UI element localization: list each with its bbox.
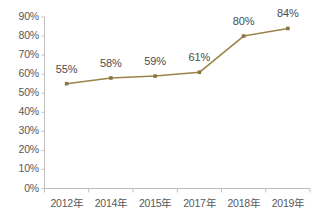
series-data-point (153, 74, 157, 78)
series-data-point (65, 82, 69, 86)
series-data-label: 80% (227, 15, 261, 27)
x-axis-tick-label: 2017年 (176, 195, 222, 210)
x-axis-tick-label: 2015年 (132, 195, 178, 210)
x-axis-tick-label: 2012年 (44, 195, 90, 210)
series-data-point (286, 27, 290, 31)
x-axis-tick-label: 2018年 (221, 195, 267, 210)
series-data-point (109, 76, 113, 80)
y-axis-tick-label: 90% (5, 10, 39, 22)
line-chart: 0%10%20%30%40%50%60%70%80%90% 2012年2014年… (0, 0, 314, 218)
series-data-label: 58% (94, 57, 128, 69)
series-data-label: 61% (182, 51, 216, 63)
y-axis-tick-label: 50% (5, 86, 39, 98)
series-data-label: 55% (50, 63, 84, 75)
y-axis-tick-label: 10% (5, 162, 39, 174)
y-axis-tick-label: 30% (5, 124, 39, 136)
chart-plot-area (0, 0, 314, 218)
x-axis-tick-label: 2014年 (88, 195, 134, 210)
series-data-label: 59% (138, 55, 172, 67)
series-data-point (198, 70, 202, 74)
x-axis-ticks (45, 189, 311, 193)
y-axis-tick-label: 0% (5, 182, 39, 194)
series-data-point (242, 34, 246, 38)
y-axis-tick-label: 40% (5, 105, 39, 117)
series-data-label: 84% (271, 7, 305, 19)
y-axis-tick-label: 20% (5, 143, 39, 155)
y-axis-tick-label: 60% (5, 67, 39, 79)
y-axis-tick-label: 80% (5, 29, 39, 41)
y-axis-tick-label: 70% (5, 48, 39, 60)
x-axis-tick-label: 2019年 (265, 195, 311, 210)
